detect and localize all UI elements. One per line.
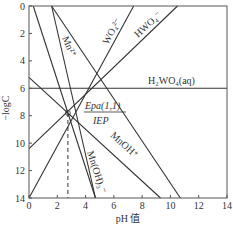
x-tick-label: 0	[27, 200, 32, 211]
x-tick-label: 12	[194, 200, 204, 211]
x-tick-label: 4	[83, 200, 88, 211]
label-iep: IEP	[92, 115, 109, 126]
x-tick-label: 14	[222, 200, 232, 211]
label-h2wo4: H₂WO₄(aq)	[148, 75, 195, 87]
y-tick-label: 6	[20, 83, 25, 94]
x-axis-label: pH 值	[116, 212, 141, 224]
x-tick-label: 8	[140, 200, 145, 211]
y-tick-label: 10	[15, 138, 25, 149]
y-tick-label: 14	[15, 193, 25, 204]
y-axis-label: −logC	[0, 95, 11, 120]
label-epa: Epa(1,1)	[84, 100, 121, 112]
label-mnoh3: Mn(OH)₃⁻	[84, 149, 109, 194]
axes: 0246810121402468101214	[15, 1, 232, 212]
y-tick-label: 0	[20, 1, 25, 12]
y-tick-label: 12	[15, 165, 25, 176]
plot-area	[29, 6, 227, 198]
chart: 0246810121402468101214 −logC pH 值 Mn²⁺ W…	[0, 0, 233, 227]
y-tick-label: 8	[20, 110, 25, 121]
y-tick-label: 2	[20, 28, 25, 39]
y-tick-label: 4	[20, 55, 25, 66]
x-tick-label: 2	[55, 200, 60, 211]
x-tick-label: 10	[165, 200, 175, 211]
x-tick-label: 6	[111, 200, 116, 211]
